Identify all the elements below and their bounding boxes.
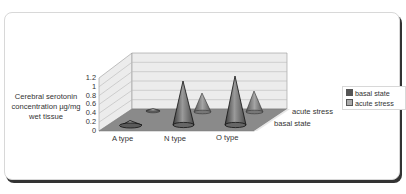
depth-tick: acute stress	[292, 107, 333, 116]
legend-item-acute-stress: acute stress	[346, 99, 394, 108]
x-tick: N type	[164, 134, 186, 143]
depth-tick: basal state	[274, 119, 311, 128]
legend: basal state acute stress	[342, 86, 406, 110]
legend-label: acute stress	[355, 99, 394, 108]
y-axis-label: Cerebral serotonin concentration µg/mg w…	[6, 92, 86, 122]
x-tick: O type	[216, 133, 238, 142]
x-tick: A type	[112, 134, 133, 143]
y-tick: 1.2	[78, 74, 96, 82]
y-tick: 0.4	[78, 109, 96, 117]
legend-label: basal state	[355, 89, 390, 98]
y-tick: 1	[78, 83, 96, 91]
legend-item-basal-state: basal state	[346, 89, 390, 98]
legend-swatch	[346, 99, 353, 106]
y-axis-label-line: Cerebral serotonin	[6, 92, 86, 102]
y-tick: 0.6	[78, 100, 96, 108]
y-tick: 0.2	[78, 118, 96, 126]
legend-swatch	[346, 89, 353, 96]
y-tick: 0	[78, 127, 96, 135]
y-axis-label-line: wet tissue	[6, 112, 86, 122]
y-axis-label-line: concentration µg/mg	[6, 102, 86, 112]
